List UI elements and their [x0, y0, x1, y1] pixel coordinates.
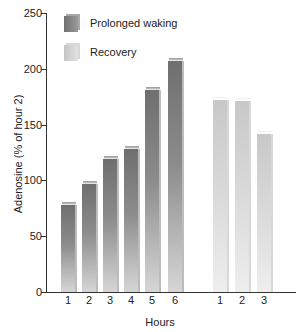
- y-tick-label: 200: [24, 63, 42, 75]
- x-tick-label: 2: [239, 294, 245, 306]
- x-axis: [46, 292, 296, 293]
- y-tick-label: 0: [36, 286, 42, 298]
- x-axis-title: Hours: [145, 316, 174, 328]
- bar: [168, 61, 182, 292]
- bar: [235, 101, 249, 292]
- x-tick-label: 5: [149, 294, 155, 306]
- legend-label-recovery: Recovery: [90, 46, 136, 58]
- bar: [61, 205, 75, 292]
- x-tick-label: 4: [128, 294, 134, 306]
- x-tick-label: 3: [107, 294, 113, 306]
- bar: [257, 134, 271, 292]
- bar: [213, 100, 227, 292]
- y-tick-label: 250: [24, 7, 42, 19]
- y-tick-label: 150: [24, 119, 42, 131]
- y-axis: [46, 13, 47, 292]
- bar: [124, 149, 138, 292]
- x-tick-label: 3: [261, 294, 267, 306]
- x-tick-label: 2: [86, 294, 92, 306]
- x-tick-label: 1: [217, 294, 223, 306]
- bar: [145, 90, 159, 292]
- legend-label-prolonged-waking: Prolonged waking: [90, 17, 177, 29]
- bar: [82, 184, 96, 292]
- y-tick-label: 50: [30, 230, 42, 242]
- legend-swatch-prolonged-waking: [64, 16, 78, 32]
- x-tick-label: 1: [65, 294, 71, 306]
- x-tick-label: 6: [172, 294, 178, 306]
- legend-swatch-recovery: [64, 45, 78, 61]
- y-axis-title: Adenosine (% of hour 2): [12, 84, 24, 224]
- y-tick-label: 100: [24, 174, 42, 186]
- bar: [103, 159, 117, 292]
